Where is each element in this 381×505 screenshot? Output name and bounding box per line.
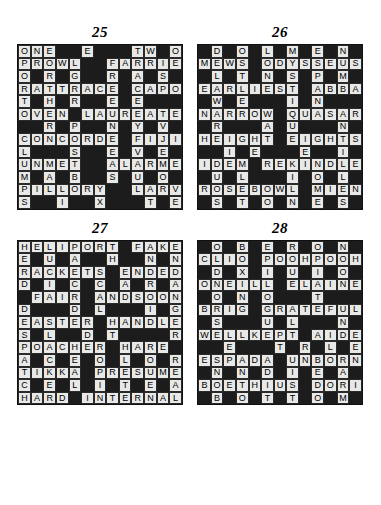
grid-cell-block — [274, 279, 287, 292]
grid-cell-letter: N — [131, 266, 144, 279]
grid-cell-block — [131, 379, 144, 392]
grid-cell-letter: A — [311, 108, 324, 121]
puzzle-number-label: 27 — [92, 218, 108, 238]
grid-cell-block — [274, 392, 287, 405]
grid-cell-letter: L — [324, 341, 337, 354]
grid-cell-block — [274, 95, 287, 108]
grid-cell-block — [31, 279, 44, 292]
grid-cell-letter: L — [69, 58, 82, 71]
grid-cell-letter: C — [56, 133, 69, 146]
grid-cell-letter: O — [157, 291, 170, 304]
grid-cell-block — [94, 316, 107, 329]
grid-cell-letter: T — [236, 379, 249, 392]
grid-cell-letter: I — [223, 146, 236, 159]
grid-cell-block — [157, 196, 170, 209]
grid-cell-letter: M — [337, 392, 350, 405]
grid-cell-block — [249, 95, 262, 108]
grid-cell-letter: R — [106, 367, 119, 380]
grid-cell-letter: P — [18, 341, 31, 354]
grid-cell-block — [249, 341, 262, 354]
grid-cell-block — [299, 196, 312, 209]
grid-cell-letter: O — [211, 291, 224, 304]
grid-cell-letter: T — [18, 367, 31, 380]
grid-cell-letter: C — [43, 354, 56, 367]
grid-cell-letter: E — [81, 341, 94, 354]
grid-cell-letter: Y — [94, 184, 107, 197]
grid-cell-letter: T — [106, 329, 119, 342]
grid-cell-block — [249, 253, 262, 266]
grid-cell-block — [119, 45, 132, 58]
grid-cell-block — [324, 266, 337, 279]
grid-cell-letter: I — [56, 241, 69, 254]
crossword-grid: OBERONCLIOPOOHPOOHDXIUIOONEILLELAINEONOT… — [197, 240, 363, 406]
grid-cell-letter: E — [324, 58, 337, 71]
grid-cell-letter: A — [337, 367, 350, 380]
grid-cell-letter: H — [249, 379, 262, 392]
grid-cell-block — [94, 70, 107, 83]
grid-cell-block — [69, 329, 82, 342]
grid-cell-letter: P — [94, 367, 107, 380]
grid-cell-letter: E — [81, 45, 94, 58]
grid-cell-block — [69, 196, 82, 209]
grid-cell-block — [349, 367, 362, 380]
grid-cell-letter: I — [286, 171, 299, 184]
grid-cell-letter: U — [299, 108, 312, 121]
grid-cell-letter: R — [106, 70, 119, 83]
grid-cell-letter: E — [169, 196, 182, 209]
grid-cell-letter: I — [249, 83, 262, 96]
grid-cell-letter: E — [311, 196, 324, 209]
grid-cell-letter: T — [144, 196, 157, 209]
grid-cell-letter: C — [94, 83, 107, 96]
grid-cell-letter: I — [261, 379, 274, 392]
grid-cell-block — [106, 354, 119, 367]
grid-cell-letter: F — [106, 58, 119, 71]
grid-cell-letter: A — [69, 367, 82, 380]
puzzle-26: 26DOLMENMEWSODYSSEUSLTNSPMEARLIESTABBAWE… — [198, 22, 362, 210]
grid-cell-block — [198, 70, 211, 83]
grid-cell-block — [56, 70, 69, 83]
grid-cell-letter: H — [18, 241, 31, 254]
grid-cell-letter: U — [274, 379, 287, 392]
grid-cell-block — [337, 291, 350, 304]
grid-cell-letter: S — [157, 70, 170, 83]
grid-cell-letter: D — [56, 392, 69, 405]
grid-cell-letter: O — [324, 354, 337, 367]
grid-cell-letter: L — [236, 329, 249, 342]
grid-cell-letter: E — [349, 329, 362, 342]
grid-cell-letter: L — [249, 279, 262, 292]
grid-cell-letter: I — [223, 304, 236, 317]
grid-cell-letter: S — [43, 316, 56, 329]
grid-cell-letter: N — [94, 392, 107, 405]
grid-cell-block — [157, 304, 170, 317]
grid-cell-block — [144, 329, 157, 342]
grid-cell-letter: H — [198, 133, 211, 146]
grid-cell-letter: A — [144, 241, 157, 254]
grid-cell-letter: O — [236, 45, 249, 58]
grid-cell-letter: E — [43, 45, 56, 58]
grid-cell-letter: L — [56, 184, 69, 197]
grid-cell-letter: R — [131, 392, 144, 405]
grid-cell-letter: O — [261, 196, 274, 209]
grid-cell-block — [349, 266, 362, 279]
grid-cell-letter: K — [286, 158, 299, 171]
grid-cell-letter: R — [144, 158, 157, 171]
grid-cell-letter: E — [211, 133, 224, 146]
grid-cell-letter: T — [56, 316, 69, 329]
grid-cell-letter: X — [94, 196, 107, 209]
grid-cell-letter: O — [274, 253, 287, 266]
puzzle-28: 28OBERONCLIOPOOHPOOHDXIUIOONEILLELAINEON… — [198, 218, 362, 406]
grid-cell-block — [223, 95, 236, 108]
grid-cell-letter: P — [274, 329, 287, 342]
grid-cell-letter: E — [311, 367, 324, 380]
grid-cell-letter: P — [311, 253, 324, 266]
grid-cell-block — [223, 45, 236, 58]
grid-cell-block — [349, 146, 362, 159]
puzzle-27: 27HELIPORTFAKEEUAHNNRACKETSENDEDDICCARAF… — [18, 218, 182, 406]
grid-cell-block — [56, 95, 69, 108]
grid-cell-letter: N — [349, 354, 362, 367]
grid-cell-letter: T — [56, 83, 69, 96]
grid-cell-letter: N — [56, 108, 69, 121]
grid-cell-block — [274, 316, 287, 329]
grid-cell-letter: O — [169, 45, 182, 58]
grid-cell-block — [119, 70, 132, 83]
